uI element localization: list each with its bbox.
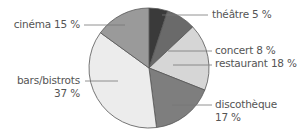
pie-slices bbox=[89, 8, 209, 128]
label-discotheque-name: discothèque bbox=[215, 98, 277, 111]
label-theatre: théâtre 5 % bbox=[212, 8, 271, 21]
label-bars-name: bars/bistrots bbox=[17, 74, 80, 87]
label-cinema: cinéma 15 % bbox=[14, 18, 80, 31]
label-restaurant: restaurant 18 % bbox=[215, 57, 297, 70]
label-bars-value: 37 % bbox=[54, 87, 80, 100]
label-discotheque-value: 17 % bbox=[215, 111, 241, 124]
label-concert: concert 8 % bbox=[215, 44, 276, 57]
